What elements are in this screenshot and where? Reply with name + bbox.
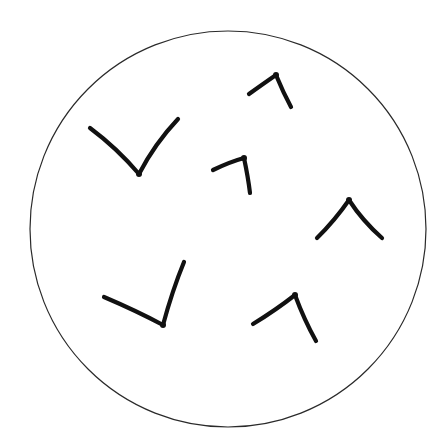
glyph-vertex-v-upper-left — [136, 171, 142, 177]
glyph-caret-right — [317, 200, 382, 238]
glyph-hook-middle — [213, 158, 250, 193]
glyph-vertex-check-lower-left — [160, 322, 166, 328]
glyph-vertex-hook-middle — [241, 155, 247, 161]
glyph-layer — [90, 72, 382, 341]
boundary-circle — [30, 31, 426, 427]
glyph-hook-lower-right — [253, 295, 316, 341]
glyph-vertex-caret-right — [346, 197, 352, 203]
glyph-v-upper-left — [90, 119, 178, 174]
glyph-hook-top — [249, 75, 291, 107]
glyph-vertex-hook-lower-right — [292, 292, 298, 298]
diagram-canvas — [0, 0, 445, 448]
glyph-check-lower-left — [104, 262, 184, 325]
glyph-vertex-hook-top — [273, 72, 279, 78]
